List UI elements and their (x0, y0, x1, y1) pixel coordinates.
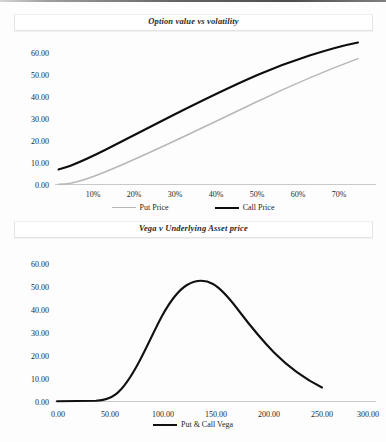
chart-one-series-call-price (59, 43, 359, 170)
chart-vega-v-underlying-asset-price: Vega v Underlying Asset price 60.00 50.0… (0, 221, 386, 436)
svg-text:10.00: 10.00 (31, 159, 49, 168)
legend-swatch-put-and-call-vega-icon (153, 424, 177, 426)
chart-two-plot-area: 60.00 50.00 40.00 30.00 20.00 10.00 0.00… (0, 241, 386, 421)
svg-text:30.00: 30.00 (31, 115, 49, 124)
svg-text:20.00: 20.00 (31, 352, 49, 361)
svg-text:70%: 70% (332, 190, 347, 199)
svg-text:40.00: 40.00 (31, 93, 49, 102)
chart-one-legend: Put Price Call Price (0, 203, 386, 212)
svg-text:300.00: 300.00 (357, 410, 379, 419)
legend-label-call-price: Call Price (243, 203, 275, 212)
legend-label-put-price: Put Price (140, 203, 169, 212)
svg-text:50%: 50% (250, 190, 265, 199)
chart-two-title: Vega v Underlying Asset price (15, 223, 372, 233)
svg-text:20%: 20% (127, 190, 142, 199)
chart-two-y-tick-labels: 60.00 50.00 40.00 30.00 20.00 10.00 0.00 (31, 260, 49, 407)
svg-text:60%: 60% (291, 190, 306, 199)
svg-text:20.00: 20.00 (31, 137, 49, 146)
svg-text:30.00: 30.00 (31, 329, 49, 338)
svg-text:50.00: 50.00 (101, 410, 119, 419)
document-page: Option value vs volatility 60.00 50.00 4… (0, 0, 386, 442)
chart-two-legend: Put & Call Vega (0, 420, 386, 429)
chart-one-x-tick-labels: 10% 20% 30% 40% 50% 60% 70% (86, 190, 347, 199)
legend-item-put-and-call-vega[interactable]: Put & Call Vega (153, 420, 233, 429)
svg-text:30%: 30% (168, 190, 183, 199)
svg-text:50.00: 50.00 (31, 71, 49, 80)
svg-text:200.00: 200.00 (258, 410, 280, 419)
legend-label-put-and-call-vega: Put & Call Vega (181, 420, 233, 429)
chart-two-svg: 60.00 50.00 40.00 30.00 20.00 10.00 0.00… (0, 241, 386, 421)
svg-text:60.00: 60.00 (31, 49, 49, 58)
svg-text:150.00: 150.00 (205, 410, 227, 419)
chart-one-svg: 60.00 50.00 40.00 30.00 20.00 10.00 0.00… (0, 32, 386, 200)
svg-text:0.00: 0.00 (51, 410, 65, 419)
scan-edge-artifact (0, 0, 386, 2)
legend-item-put-price[interactable]: Put Price (112, 203, 169, 212)
chart-two-series-put-and-call-vega (57, 281, 322, 401)
chart-one-y-tick-labels: 60.00 50.00 40.00 30.00 20.00 10.00 0.00 (31, 49, 49, 190)
svg-text:60.00: 60.00 (31, 260, 49, 269)
svg-text:100.00: 100.00 (152, 410, 174, 419)
svg-text:50.00: 50.00 (31, 283, 49, 292)
svg-text:0.00: 0.00 (35, 181, 49, 190)
legend-item-call-price[interactable]: Call Price (215, 203, 275, 212)
svg-text:250.00: 250.00 (311, 410, 333, 419)
svg-text:10%: 10% (86, 190, 101, 199)
chart-one-title-bar: Option value vs volatility (14, 14, 373, 31)
legend-swatch-put-price-icon (112, 207, 136, 208)
chart-two-title-bar: Vega v Underlying Asset price (14, 221, 373, 238)
legend-swatch-call-price-icon (215, 207, 239, 209)
chart-one-plot-area: 60.00 50.00 40.00 30.00 20.00 10.00 0.00… (0, 32, 386, 200)
svg-text:10.00: 10.00 (31, 375, 49, 384)
chart-two-x-tick-labels: 0.00 50.00 100.00 150.00 200.00 250.00 3… (51, 410, 379, 419)
chart-one-title: Option value vs volatility (15, 16, 372, 26)
svg-text:40.00: 40.00 (31, 306, 49, 315)
chart-one-series-put-price (59, 59, 359, 185)
chart-option-value-vs-volatility: Option value vs volatility 60.00 50.00 4… (0, 10, 386, 220)
svg-text:40%: 40% (209, 190, 224, 199)
svg-text:0.00: 0.00 (35, 398, 49, 407)
